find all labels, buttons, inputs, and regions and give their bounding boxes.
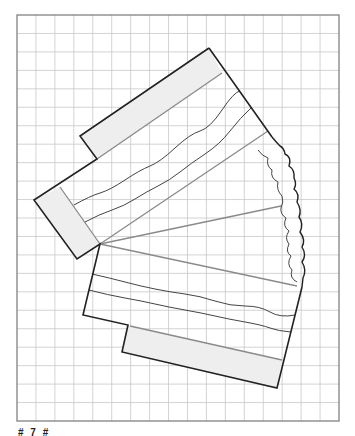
radial-line <box>100 244 297 286</box>
radial-line <box>100 131 268 244</box>
construction-diagram <box>0 0 355 436</box>
wavy-line <box>92 274 295 316</box>
upper-shaded-band <box>80 48 222 159</box>
cloud-edge-inner <box>258 150 297 282</box>
lower-shaded-band <box>122 325 282 388</box>
figure-caption: # 7 # <box>18 428 50 436</box>
wavy-line <box>89 290 291 332</box>
